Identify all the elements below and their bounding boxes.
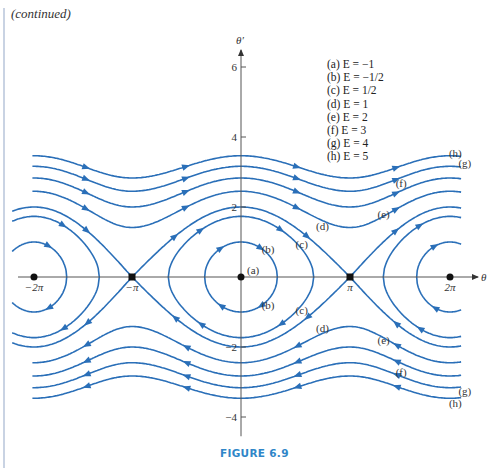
curve-label: (e) (378, 334, 391, 347)
curve-c-arrow (58, 324, 68, 334)
equilibrium-points: (a) (30, 264, 453, 281)
curve-labels: (b)(b)(c)(c)(d)(d)(e)(e)(f)(f)(g)(g)(h)(… (262, 147, 472, 410)
curve-f-arrow (392, 357, 402, 366)
curve-h-arrow (82, 163, 92, 172)
curve-label: (b) (262, 299, 275, 312)
curve-f-arrow (81, 188, 91, 197)
phase-portrait-chart: θθ′642−2−4−2π−ππ2π (a) (b)(b)(c)(c)(d)(d… (0, 0, 487, 468)
curve-f-arrow (392, 188, 402, 197)
legend-entry-e: (e) E = 2 (327, 111, 368, 124)
equilibrium-point (30, 274, 37, 281)
curve-label: (c) (296, 238, 309, 251)
curve-label: (h) (449, 147, 462, 160)
curve-h-arrow (181, 162, 191, 171)
curve-h-arrow (392, 382, 402, 391)
saddle-point (347, 274, 354, 281)
curve-f-arrow (292, 358, 302, 367)
equilibrium-point (238, 274, 245, 281)
curve-label: (d) (316, 322, 329, 335)
curve-h-arrow (292, 163, 302, 172)
curve-f-arrow (181, 187, 191, 196)
y-axis-label: θ′ (236, 34, 244, 46)
x-tick-label: −π (126, 281, 139, 293)
curve-f-arrow (81, 357, 91, 366)
y-tick-label: 2 (232, 201, 238, 213)
curve-g-arrow (81, 370, 91, 379)
equilibrium-label: (a) (247, 264, 260, 277)
x-axis-label: θ (481, 271, 487, 283)
curve-e-arrow (81, 340, 91, 350)
curve-g-arrow (181, 372, 191, 381)
curve-label: (d) (316, 220, 329, 233)
legend-entry-d: (d) E = 1 (327, 98, 369, 111)
curve-c-arrow (415, 221, 425, 231)
curve-c-arrow (58, 221, 68, 231)
x-tick-label: 2π (444, 281, 456, 293)
legend-entry-a: (a) E = −1 (327, 58, 374, 71)
y-tick-label: 4 (232, 131, 238, 143)
legend-entry-g: (g) E = 4 (327, 137, 369, 150)
curve-label: (g) (458, 157, 471, 170)
curve-f-arrow (292, 188, 302, 197)
legend-entry-b: (b) E = −1/2 (327, 71, 384, 84)
curve-h-arrow (82, 382, 92, 391)
curve-e-arrow (391, 204, 401, 213)
curve-e-arrow (181, 342, 191, 351)
curve-e-arrow (292, 203, 302, 212)
legend-entry-c: (c) E = 1/2 (327, 84, 377, 97)
legend: (a) E = −1(b) E = −1/2(c) E = 1/2(d) E =… (327, 58, 384, 163)
curve-label: (f) (396, 177, 407, 190)
curve-e-arrow (391, 340, 401, 349)
curve-g-arrow (292, 174, 302, 183)
curve-e-arrow (181, 202, 191, 211)
figure-caption: FIGURE 6.9 (220, 447, 289, 459)
saddle-point (128, 274, 135, 281)
y-tick-label: −2 (225, 341, 237, 353)
x-tick-label: −2π (25, 281, 44, 293)
curve-e-arrow (292, 341, 302, 350)
curve-label: (h) (449, 397, 462, 410)
curve-label: (b) (262, 243, 275, 256)
y-tick-label: −4 (225, 411, 237, 423)
curve-f-arrow (181, 358, 191, 367)
legend-entry-h: (h) E = 5 (327, 150, 369, 163)
curve-label: (g) (458, 385, 471, 398)
curve-g-arrow (292, 371, 302, 380)
y-tick-label: 6 (232, 61, 238, 73)
curve-h-arrow (181, 383, 191, 392)
curve-g-arrow (181, 174, 191, 183)
x-tick-label: π (347, 281, 353, 293)
curve-g-arrow (81, 175, 91, 184)
curve-h-arrow (292, 383, 302, 392)
legend-entry-f: (f) E = 3 (327, 124, 367, 137)
curve-h-arrow (392, 163, 402, 172)
curve-label: (f) (396, 366, 407, 379)
equilibrium-point (447, 274, 454, 281)
curve-label: (c) (296, 304, 309, 317)
curve-c-arrow (415, 324, 425, 334)
curve-b (417, 242, 461, 277)
curve-label: (e) (378, 208, 391, 221)
curve-e-arrow (81, 204, 91, 214)
curve-c (383, 216, 461, 277)
